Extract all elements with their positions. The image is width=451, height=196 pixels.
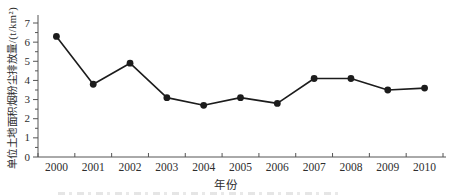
data-point — [274, 100, 281, 107]
y-axis-tick-label: 6 — [25, 36, 31, 48]
data-point — [384, 87, 391, 94]
x-axis-tick-label: 2000 — [45, 161, 68, 173]
data-point — [348, 75, 355, 82]
y-axis-tick-label: 3 — [25, 93, 31, 105]
x-axis-tick-label: 2007 — [303, 161, 326, 173]
emission-line-chart-figure: 0123456720002001200220032004200520062007… — [0, 0, 451, 196]
x-axis-tick-label: 2008 — [339, 161, 362, 173]
y-axis-tick-label: 1 — [25, 131, 31, 143]
x-axis-tick-label: 2002 — [119, 161, 142, 173]
x-axis-tick-label: 2006 — [266, 161, 289, 173]
x-axis-title: 年份 — [0, 176, 451, 192]
x-axis-tick-label: 2010 — [413, 161, 436, 173]
line-chart-canvas: 0123456720002001200220032004200520062007… — [0, 0, 451, 196]
x-axis-tick-label: 2005 — [229, 161, 252, 173]
data-point — [200, 102, 207, 109]
data-point — [237, 94, 244, 101]
y-axis-tick-label: 0 — [25, 151, 31, 163]
data-point — [90, 81, 97, 88]
cropped-caption-fragment — [58, 192, 340, 195]
x-axis-tick-label: 2003 — [155, 161, 178, 173]
data-point — [311, 75, 318, 82]
data-point — [53, 33, 60, 40]
x-axis-tick-label: 2004 — [192, 161, 215, 173]
y-axis-tick-label: 4 — [25, 74, 31, 86]
y-axis-tick-label: 2 — [25, 112, 31, 124]
x-axis-tick-label: 2001 — [82, 161, 105, 173]
x-axis-tick-label: 2009 — [376, 161, 399, 173]
y-axis-tick-label: 7 — [25, 17, 31, 29]
data-point — [421, 85, 428, 92]
data-point — [127, 60, 134, 67]
y-axis-tick-label: 5 — [25, 55, 31, 67]
data-point — [163, 94, 170, 101]
